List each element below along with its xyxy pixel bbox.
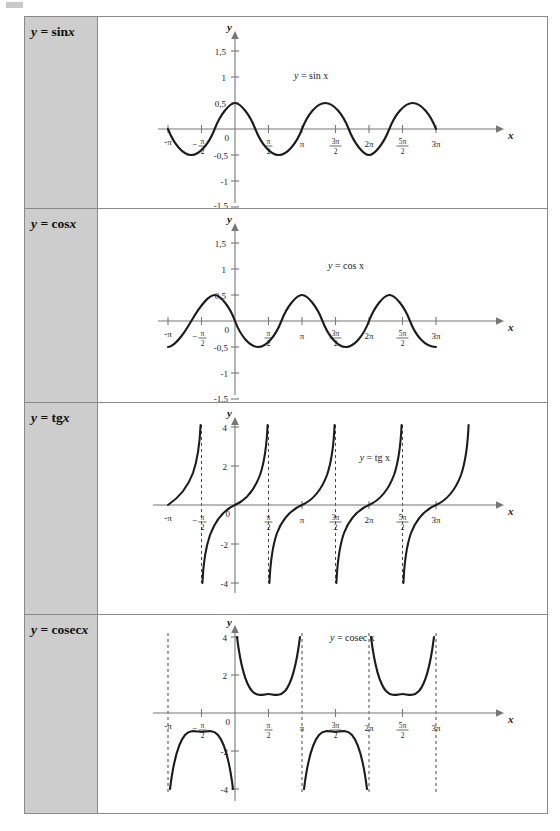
svg-text:π: π xyxy=(267,721,271,730)
y-tick-label: 2 xyxy=(223,671,228,681)
y-tick-label: 4 xyxy=(223,633,228,643)
y-tick-label: -2 xyxy=(221,540,229,550)
x-tick-label: -π xyxy=(164,137,172,147)
plot-cell-cos: y x 1,5 1 0,5 0 -0,5 -1 -1,5 xyxy=(98,209,547,402)
curve-label-cosec: y = cosec x xyxy=(329,632,375,643)
y-tick-label: -0,5 xyxy=(214,343,229,353)
svg-text:2: 2 xyxy=(267,523,271,532)
x-tick-label-half-pi: π 2 xyxy=(265,721,273,740)
x-tick-label-five-half-pi: 5π 2 xyxy=(397,721,409,740)
x-tick-label-half-pi: π 2 xyxy=(265,513,273,532)
svg-text:3π: 3π xyxy=(332,137,340,146)
y-tick-label: -1 xyxy=(221,369,229,379)
y-tick-label: 4 xyxy=(223,423,228,433)
y-axis-name-sin: y xyxy=(225,21,232,33)
x-axis-arrow-tg xyxy=(496,501,504,509)
y-tick-label: 1,5 xyxy=(215,239,227,249)
svg-text:π: π xyxy=(201,513,205,522)
x-tick-label: 2π xyxy=(364,723,374,733)
row-label-cell-cos: y = cosx xyxy=(25,209,98,402)
x-tick-label-neg-half-pi: − π 2 xyxy=(192,513,207,532)
y-tick-label: -4 xyxy=(221,579,229,589)
plot-cell-tg: y x 4 2 0 -2 -4 -π − π xyxy=(98,403,547,614)
svg-text:−: − xyxy=(192,139,197,149)
svg-text:π: π xyxy=(267,513,271,522)
x-tick-label: π xyxy=(300,331,305,341)
curve-label-tg: y = tg x xyxy=(359,452,390,463)
row-label-cosec: y = cosecx xyxy=(31,622,97,638)
x-axis-arrow-cos xyxy=(496,317,504,325)
chart-cosec: y x 4 2 0 -2 -4 -π − xyxy=(98,615,547,813)
chart-cos: y x 1,5 1 0,5 0 -0,5 -1 -1,5 xyxy=(98,209,547,403)
chart-tg: y x 4 2 0 -2 -4 -π − π xyxy=(98,403,547,615)
trig-function-table: y = sinx y x 1,5 1 0, xyxy=(24,16,548,814)
x-tick-label: 2π xyxy=(364,139,374,149)
x-tick-label-neg-half-pi: − π 2 xyxy=(192,329,207,348)
svg-text:2: 2 xyxy=(267,731,271,740)
y-tick-label-zero: 0 xyxy=(226,717,231,727)
x-tick-label: 2π xyxy=(364,331,374,341)
x-axis-name-cosec: x xyxy=(507,713,514,725)
x-tick-label: -π xyxy=(164,329,172,339)
row-label-sin: y = sinx xyxy=(31,24,97,40)
svg-text:−: − xyxy=(192,515,197,525)
svg-text:5π: 5π xyxy=(399,137,407,146)
x-tick-label: π xyxy=(300,139,305,149)
svg-text:2: 2 xyxy=(401,147,405,156)
x-axis-arrow-sin xyxy=(496,125,504,133)
x-tick-label-five-half-pi: 5π 2 xyxy=(397,137,409,156)
row-label-cell-cosec: y = cosecx xyxy=(25,615,98,813)
y-axis-arrow-sin xyxy=(231,31,239,39)
x-axis-name-tg: x xyxy=(507,505,514,517)
x-tick-label: 3π xyxy=(431,331,441,341)
x-tick-label-five-half-pi: 5π 2 xyxy=(397,513,409,532)
svg-text:π: π xyxy=(267,329,271,338)
y-tick-label: 0,5 xyxy=(215,99,227,109)
plot-cell-cosec: y x 4 2 0 -2 -4 -π − xyxy=(98,615,547,813)
x-tick-label: π xyxy=(300,723,305,733)
row-label-cell-tg: y = tgx xyxy=(25,403,98,614)
y-tick-label: -1 xyxy=(221,177,229,187)
y-axis-arrow-cos xyxy=(231,223,239,231)
x-axis-name-cos: x xyxy=(507,321,514,333)
x-axis-arrow-cosec xyxy=(496,709,504,717)
svg-text:2: 2 xyxy=(401,339,405,348)
svg-text:2: 2 xyxy=(401,731,405,740)
table-row-cosec: y = cosecx y x 4 xyxy=(25,615,547,813)
svg-text:5π: 5π xyxy=(399,329,407,338)
svg-text:−: − xyxy=(192,331,197,341)
svg-text:2: 2 xyxy=(401,523,405,532)
y-tick-label-zero: 0 xyxy=(225,325,230,335)
y-axis-arrow-tg xyxy=(231,417,239,425)
svg-text:2: 2 xyxy=(334,523,338,532)
x-tick-label: π xyxy=(300,515,305,525)
y-axis-arrow-cosec xyxy=(231,625,239,633)
x-tick-label: 3π xyxy=(431,723,441,733)
svg-text:π: π xyxy=(201,721,205,730)
curve-tg xyxy=(168,425,469,583)
table-row-sin: y = sinx y x 1,5 1 0, xyxy=(25,17,547,209)
y-tick-label: 1,5 xyxy=(215,47,227,57)
x-tick-label: 2π xyxy=(364,515,374,525)
svg-text:5π: 5π xyxy=(399,721,407,730)
y-axis-name-tg: y xyxy=(225,407,232,419)
row-label-cos: y = cosx xyxy=(31,216,97,232)
chart-sin: y x 1,5 1 0,5 0 -0,5 -1 -1,5 xyxy=(98,17,547,209)
row-label-tg: y = tgx xyxy=(31,410,97,426)
page-corner-artifact xyxy=(6,2,23,8)
x-tick-label: -π xyxy=(164,721,172,731)
x-axis-name-sin: x xyxy=(507,129,514,141)
x-tick-label-three-half-pi: 3π 2 xyxy=(330,137,342,156)
y-tick-label: 2 xyxy=(223,462,228,472)
y-tick-label: 1 xyxy=(222,73,227,83)
x-tick-label-three-half-pi: 3π 2 xyxy=(330,513,342,532)
svg-text:2: 2 xyxy=(201,523,205,532)
y-axis-name-cosec: y xyxy=(225,616,232,628)
y-axis-name-cos: y xyxy=(225,213,232,225)
x-tick-label: 3π xyxy=(431,139,441,149)
row-label-cell-sin: y = sinx xyxy=(25,17,98,208)
svg-text:3π: 3π xyxy=(332,513,340,522)
svg-text:2: 2 xyxy=(334,147,338,156)
x-tick-label: -π xyxy=(164,513,172,523)
x-tick-label: 3π xyxy=(431,515,441,525)
